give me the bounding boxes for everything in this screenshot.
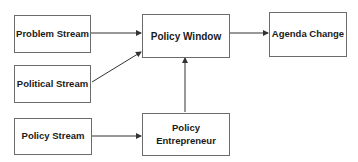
- node-policy-window: Policy Window: [142, 14, 230, 58]
- arrow-political-to-window: [92, 52, 141, 82]
- node-label: Policy Entrepreneur: [156, 122, 216, 147]
- node-agenda-change: Agenda Change: [269, 12, 347, 57]
- node-problem-stream: Problem Stream: [14, 15, 91, 53]
- node-label: Policy Stream: [22, 130, 85, 142]
- node-policy-stream: Policy Stream: [14, 118, 92, 155]
- node-political-stream: Political Stream: [14, 65, 91, 103]
- node-label: Political Stream: [17, 78, 88, 90]
- node-label: Problem Stream: [16, 28, 89, 40]
- node-label: Policy Window: [151, 30, 221, 43]
- node-label: Agenda Change: [272, 28, 344, 40]
- node-policy-entrepreneur: Policy Entrepreneur: [142, 113, 230, 156]
